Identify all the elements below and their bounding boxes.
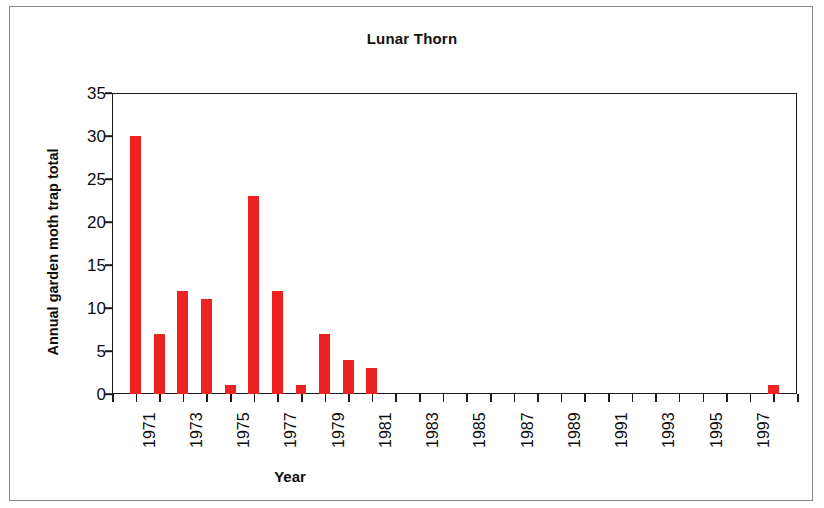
x-tick-mark (655, 394, 657, 402)
y-tick-mark (105, 178, 112, 180)
x-tick-mark (159, 394, 161, 402)
x-tick-label: 1973 (189, 412, 205, 448)
x-tick-mark (230, 394, 232, 402)
x-tick-mark (443, 394, 445, 402)
y-tick-mark (105, 92, 112, 94)
x-tick-mark (608, 394, 610, 402)
x-tick-mark (537, 394, 539, 402)
x-tick-mark (584, 394, 586, 402)
x-axis-ticks (112, 394, 797, 403)
plot-area (112, 93, 797, 394)
x-tick-mark (750, 394, 752, 402)
x-tick-mark (561, 394, 563, 402)
x-tick-label: 1981 (378, 412, 394, 448)
y-tick-label: 20 (72, 214, 106, 231)
x-tick-mark (419, 394, 421, 402)
x-tick-label: 1993 (661, 412, 677, 448)
y-tick-mark (105, 307, 112, 309)
y-tick-label: 0 (72, 386, 106, 403)
x-tick-mark (514, 394, 516, 402)
x-tick-mark (301, 394, 303, 402)
chart-title: Lunar Thorn (0, 30, 824, 47)
y-tick-label: 30 (72, 128, 106, 145)
y-tick-label: 15 (72, 257, 106, 274)
x-tick-mark (466, 394, 468, 402)
x-tick-label: 1983 (425, 412, 441, 448)
x-tick-mark (372, 394, 374, 402)
y-tick-mark (105, 135, 112, 137)
x-tick-label: 1987 (520, 412, 536, 448)
x-tick-label: 1977 (283, 412, 299, 448)
x-tick-mark (325, 394, 327, 402)
x-tick-mark (395, 394, 397, 402)
x-tick-label: 1975 (236, 412, 252, 448)
x-tick-mark (136, 394, 138, 402)
x-tick-mark (632, 394, 634, 402)
y-tick-label: 25 (72, 171, 106, 188)
x-tick-label: 1997 (756, 412, 772, 448)
x-tick-mark (254, 394, 256, 402)
x-tick-mark (206, 394, 208, 402)
x-tick-label: 1991 (614, 412, 630, 448)
x-tick-mark (797, 394, 799, 402)
x-axis-tick-labels: 1971197319751977197919811983198519871989… (112, 404, 797, 454)
y-tick-mark (105, 221, 112, 223)
x-tick-label: 1985 (472, 412, 488, 448)
x-tick-mark (112, 394, 114, 402)
x-tick-mark (348, 394, 350, 402)
y-tick-mark (105, 350, 112, 352)
x-tick-mark (183, 394, 185, 402)
y-tick-mark (105, 264, 112, 266)
x-tick-mark (703, 394, 705, 402)
y-tick-label: 35 (72, 85, 106, 102)
y-tick-mark (105, 393, 112, 395)
x-tick-mark (726, 394, 728, 402)
x-tick-label: 1989 (567, 412, 583, 448)
x-tick-label: 1995 (709, 412, 725, 448)
x-axis-title: Year (240, 468, 340, 485)
x-tick-mark (679, 394, 681, 402)
y-axis-tick-labels: 05101520253035 (62, 93, 106, 394)
x-tick-mark (277, 394, 279, 402)
x-tick-label: 1979 (331, 412, 347, 448)
chart-screenshot: Lunar Thorn Annual garden moth trap tota… (0, 0, 824, 508)
x-tick-mark (773, 394, 775, 402)
x-tick-mark (490, 394, 492, 402)
y-axis-title: Annual garden moth trap total (45, 102, 61, 402)
y-tick-label: 10 (72, 300, 106, 317)
x-tick-label: 1971 (142, 412, 158, 448)
y-tick-label: 5 (72, 343, 106, 360)
